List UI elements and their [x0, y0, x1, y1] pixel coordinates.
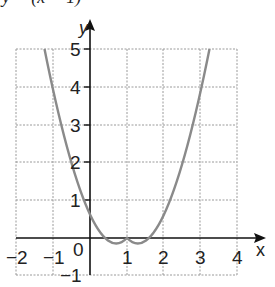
y-tick-1: 1	[70, 190, 81, 211]
y-ticks	[84, 49, 90, 200]
x-axis-label: x	[256, 240, 265, 260]
x-tick-4: 4	[232, 247, 243, 268]
x-tick-1: 1	[122, 247, 133, 268]
x-tick-minus-2: −2	[6, 247, 28, 268]
y-tick-minus-1: −1	[60, 265, 82, 286]
y-axis-label: y	[77, 18, 89, 38]
y-tick-5: 5	[70, 39, 81, 60]
parabola-chart: y x 5 4 3 2 1 −1 0 −2 −1 1 2 3 4	[0, 0, 275, 287]
grid	[16, 49, 237, 275]
x-tick-2: 2	[158, 247, 169, 268]
origin-label: 0	[73, 239, 84, 260]
y-tick-4: 4	[70, 77, 81, 98]
y-tick-2: 2	[70, 152, 81, 173]
x-tick-minus-1: −1	[43, 247, 65, 268]
axes	[16, 28, 258, 275]
x-tick-3: 3	[195, 247, 206, 268]
y-tick-3: 3	[70, 115, 81, 136]
